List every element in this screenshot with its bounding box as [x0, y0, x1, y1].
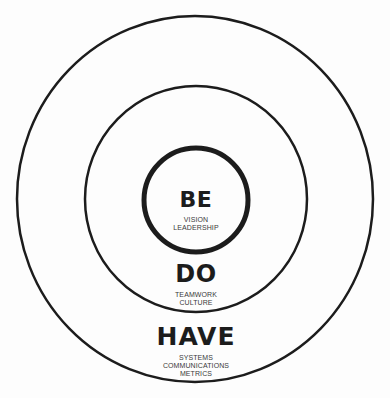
do-title: DO: [1, 262, 390, 286]
have-label-group: HAVE SYSTEMS COMMUNICATIONS METRICS: [1, 324, 390, 378]
diagram-canvas: BE VISION LEADERSHIP DO TEAMWORK CULTURE…: [0, 0, 390, 398]
do-label-group: DO TEAMWORK CULTURE: [1, 262, 390, 307]
be-item-leadership: LEADERSHIP: [1, 224, 390, 232]
have-title: HAVE: [1, 324, 390, 349]
be-item-vision: VISION: [1, 216, 390, 224]
have-item-systems: SYSTEMS: [1, 354, 390, 362]
have-item-metrics: METRICS: [1, 370, 390, 378]
have-item-communications: COMMUNICATIONS: [1, 362, 390, 370]
be-title: BE: [1, 189, 390, 211]
do-item-teamwork: TEAMWORK: [1, 291, 390, 299]
do-item-culture: CULTURE: [1, 299, 390, 307]
be-label-group: BE VISION LEADERSHIP: [1, 189, 390, 232]
